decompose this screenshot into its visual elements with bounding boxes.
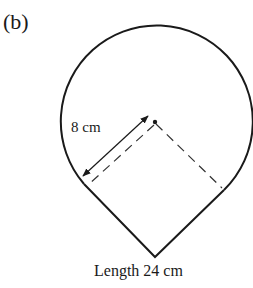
dashed-radius-right	[156, 124, 222, 188]
part-label: (b)	[3, 9, 29, 35]
diagram-canvas	[0, 0, 253, 288]
length-label: Length 24 cm	[94, 262, 183, 280]
radius-label: 8 cm	[71, 119, 101, 136]
center-point	[153, 120, 157, 124]
circle-arc	[61, 25, 253, 190]
tangent-lines	[84, 184, 224, 257]
